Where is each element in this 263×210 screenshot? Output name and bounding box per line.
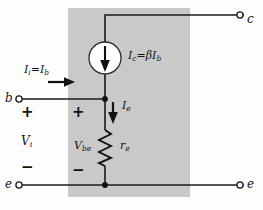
resistance-subscript: e <box>125 144 129 153</box>
base-node-dot <box>102 96 108 102</box>
minus-sign-inner: − <box>72 163 85 178</box>
input-voltage-label: Vi <box>21 135 32 148</box>
minus-sign-outer: − <box>21 160 34 175</box>
base-terminal-label: b <box>5 92 13 104</box>
input-voltage-subscript: i <box>30 139 33 149</box>
emitter-right-terminal-label: e <box>247 178 254 190</box>
plus-sign-outer: + <box>21 105 34 120</box>
input-current-eq-subscript: b <box>44 68 49 77</box>
emitter-node-dot <box>102 182 108 188</box>
circuit-schematic-svg <box>0 0 263 210</box>
collector-terminal-label: c <box>247 13 254 25</box>
input-voltage-symbol: V <box>21 134 30 148</box>
resistance-label: re <box>120 140 130 152</box>
base-emitter-voltage-symbol: V <box>74 139 82 152</box>
base-terminal-circle[interactable] <box>16 96 22 102</box>
collector-current-eq-subscript: b <box>156 54 161 63</box>
base-emitter-voltage-label: Vbe <box>74 140 91 152</box>
emitter-left-terminal-label: e <box>5 178 12 190</box>
plus-sign-inner: + <box>72 105 85 120</box>
collector-current-label: Ic=βIb <box>128 50 161 62</box>
emitter-current-label: Ie <box>122 100 131 112</box>
collector-current-equals: =βI <box>137 49 157 62</box>
circuit-diagram-figure: b e c e Ii=Ib Ic=βIb Ie Vi Vbe re + + − … <box>0 0 263 210</box>
base-emitter-voltage-subscript: be <box>82 144 91 153</box>
emitter-right-terminal-circle[interactable] <box>237 182 243 188</box>
input-current-label: Ii=Ib <box>24 64 49 76</box>
input-current-equals: =I <box>31 63 45 76</box>
collector-terminal-circle[interactable] <box>237 12 243 18</box>
emitter-current-subscript: e <box>126 104 130 113</box>
emitter-left-terminal-circle[interactable] <box>16 182 22 188</box>
